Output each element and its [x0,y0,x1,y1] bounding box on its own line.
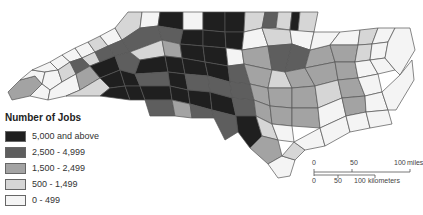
legend-swatch [5,163,26,174]
legend-swatch [5,179,26,190]
legend-swatch [5,131,26,142]
scale-km-50: 50 [334,177,342,184]
scale-miles-0: 0 [312,159,316,166]
scale-miles-unit: miles [407,159,423,166]
scale-miles-100: 100 [394,159,406,166]
legend-label: 500 - 1,499 [32,179,78,189]
legend-item: 1,500 - 2,499 [5,160,125,176]
legend-label: 1,500 - 2,499 [32,163,85,173]
scale-miles-50: 50 [350,159,358,166]
scale-km-100: 100 [354,177,366,184]
scale-bar: 0 50 100 miles 0 50 100 kilometers [312,157,417,187]
legend-item: 500 - 1,499 [5,176,125,192]
legend-item: 2,500 - 4,999 [5,144,125,160]
legend-item: 0 - 499 [5,192,125,208]
legend-item: 5,000 and above [5,128,125,144]
legend-title: Number of Jobs [5,112,125,123]
legend-label: 2,500 - 4,999 [32,147,85,157]
legend-label: 0 - 499 [32,195,60,205]
legend-swatch [5,147,26,158]
scale-km-unit: kilometers [368,177,400,184]
legend-swatch [5,195,26,206]
legend-label: 5,000 and above [32,131,99,141]
map-legend: Number of Jobs 5,000 and above 2,500 - 4… [5,112,125,208]
scale-km-0: 0 [312,177,316,184]
